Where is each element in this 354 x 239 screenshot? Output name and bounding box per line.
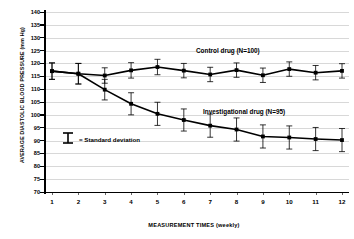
series-label-investigational-drug: Investigational drug (N=95) <box>203 108 285 115</box>
data-point-marker <box>340 69 344 73</box>
data-point-marker <box>287 67 291 71</box>
series-control-drug <box>49 59 345 84</box>
series-line <box>52 67 342 75</box>
data-point-marker <box>156 112 160 116</box>
data-point-marker <box>208 73 212 77</box>
data-point-marker <box>129 102 133 106</box>
data-point-marker <box>340 138 344 142</box>
data-point-marker <box>261 73 265 77</box>
data-point-marker <box>314 137 318 141</box>
series-label-control-drug: Control drug (N=100) <box>196 47 260 54</box>
data-point-marker <box>314 71 318 75</box>
data-point-marker <box>235 128 239 132</box>
series-line <box>52 71 342 140</box>
data-point-marker <box>235 68 239 72</box>
data-point-marker <box>156 65 160 69</box>
diastolic-blood-pressure-chart: AVERAGE DIASTOLIC BLOOD PRESSURE (mm Hg)… <box>0 0 354 239</box>
data-point-marker <box>182 69 186 73</box>
data-point-marker <box>261 135 265 139</box>
data-point-marker <box>103 88 107 92</box>
data-series-layer <box>0 0 354 239</box>
data-point-marker <box>50 69 54 73</box>
data-point-marker <box>129 68 133 72</box>
data-point-marker <box>103 74 107 78</box>
data-point-marker <box>182 118 186 122</box>
standard-deviation-legend-label: = Standard deviation <box>79 136 140 143</box>
data-point-marker <box>287 136 291 140</box>
standard-deviation-icon <box>60 131 76 145</box>
data-point-marker <box>208 124 212 128</box>
data-point-marker <box>76 72 80 76</box>
